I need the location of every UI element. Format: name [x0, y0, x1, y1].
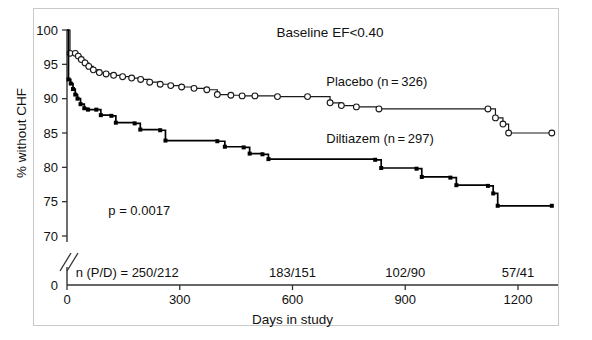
y-tick-label-80: 80 [44, 160, 58, 175]
figure-container: 100959085807570003006009001200Days in st… [0, 0, 592, 340]
placebo-marker [353, 104, 359, 110]
placebo-marker [500, 121, 506, 127]
placebo-marker [228, 92, 234, 98]
diltiazem-marker [138, 128, 142, 132]
diltiazem-marker [76, 97, 80, 101]
y-tick-label-70: 70 [44, 229, 58, 244]
diltiazem-marker [71, 87, 75, 91]
diltiazem-marker [158, 128, 162, 132]
diltiazem-marker [94, 108, 98, 112]
diltiazem-marker [163, 139, 167, 143]
n-at-risk-0: n (P/D) = 250/212 [76, 265, 179, 280]
y-tick-label-75: 75 [44, 194, 58, 209]
diltiazem-marker [486, 184, 490, 188]
x-axis-title: Days in study [252, 312, 333, 327]
diltiazem-marker [86, 108, 90, 112]
diltiazem-marker [99, 113, 103, 117]
x-tick-label-600: 600 [282, 292, 304, 307]
x-tick-label-1200: 1200 [504, 292, 533, 307]
kaplan-meier-chart: 100959085807570003006009001200Days in st… [0, 0, 592, 340]
y-axis-title: % without CHF [14, 88, 29, 178]
series-diltiazem [67, 30, 554, 208]
diltiazem-marker [215, 139, 219, 143]
legend-label-placebo: Placebo (n = 326) [326, 74, 427, 89]
diltiazem-marker [420, 175, 424, 179]
y-tick-label-100: 100 [36, 23, 58, 38]
diltiazem-marker [109, 114, 113, 118]
placebo-marker [305, 94, 311, 100]
diltiazem-marker [454, 183, 458, 187]
series-placebo [67, 30, 555, 136]
y-tick-label-90: 90 [44, 91, 58, 106]
placebo-marker [103, 71, 109, 77]
diltiazem-marker [266, 157, 270, 161]
diltiazem-marker [223, 145, 227, 149]
diltiazem-marker [491, 191, 495, 195]
diltiazem-marker [550, 204, 554, 208]
diltiazem-marker [79, 102, 83, 106]
placebo-marker [376, 106, 382, 112]
n-at-risk-1: 183/151 [269, 265, 316, 280]
placebo-marker [168, 83, 174, 89]
placebo-marker [493, 115, 499, 121]
diltiazem-marker [82, 106, 86, 110]
diltiazem-marker [496, 204, 500, 208]
diltiazem-marker [73, 93, 77, 97]
n-at-risk-2: 102/90 [385, 265, 425, 280]
diltiazem-marker [448, 176, 452, 180]
diltiazem-marker [133, 121, 137, 125]
placebo-marker [275, 94, 281, 100]
placebo-marker [138, 77, 144, 83]
placebo-marker [120, 74, 126, 80]
diltiazem-marker [69, 82, 73, 86]
diltiazem-marker [379, 166, 383, 170]
diltiazem-marker [260, 152, 264, 156]
x-tick-label-0: 0 [63, 292, 70, 307]
x-tick-label-900: 900 [394, 292, 416, 307]
legend-label-diltiazem: Diltiazem (n = 297) [326, 131, 433, 146]
diltiazem-marker [373, 158, 377, 162]
placebo-marker [252, 93, 258, 99]
y-tick-label-85: 85 [44, 126, 58, 141]
diltiazem-marker [67, 77, 71, 81]
placebo-marker [239, 93, 245, 99]
placebo-marker [157, 81, 163, 87]
p-value-annotation: p = 0.0017 [108, 203, 170, 218]
placebo-marker [214, 92, 220, 98]
chart-title: Baseline EF<0.40 [277, 25, 384, 40]
diltiazem-marker [242, 145, 246, 149]
n-at-risk-3: 57/41 [502, 265, 535, 280]
placebo-marker [506, 130, 512, 136]
diltiazem-marker [248, 152, 252, 156]
placebo-marker [147, 79, 153, 85]
x-tick-label-300: 300 [169, 292, 191, 307]
y-tick-label-0: 0 [51, 278, 58, 293]
placebo-marker [90, 67, 96, 73]
placebo-marker [327, 100, 333, 106]
y-tick-label-95: 95 [44, 57, 58, 72]
placebo-marker [204, 87, 210, 93]
diltiazem-marker [415, 167, 419, 171]
placebo-marker [179, 84, 185, 90]
placebo-marker [485, 106, 491, 112]
placebo-marker [338, 103, 344, 109]
curve-diltiazem [67, 30, 552, 206]
diltiazem-marker [114, 121, 118, 125]
placebo-marker [111, 72, 117, 78]
placebo-marker [129, 75, 135, 81]
placebo-marker [96, 70, 102, 76]
placebo-marker [549, 130, 555, 136]
placebo-marker [191, 85, 197, 91]
